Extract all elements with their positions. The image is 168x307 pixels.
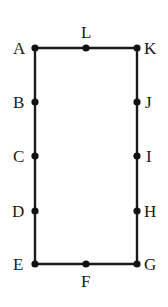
- vertex-label-h: H: [144, 203, 156, 220]
- vertex-dot-b: [31, 98, 38, 105]
- geometry-figure: ABCDEFGHIJKL: [0, 0, 168, 307]
- vertex-dot-h: [133, 207, 140, 214]
- vertex-dot-e: [31, 260, 38, 267]
- vertex-label-g: G: [144, 256, 156, 273]
- vertex-label-i: I: [146, 148, 152, 165]
- vertex-dots: [31, 44, 140, 267]
- vertex-dot-a: [31, 44, 38, 51]
- vertex-dot-g: [133, 260, 140, 267]
- rectangle-edges: [35, 48, 137, 264]
- vertex-label-k: K: [144, 40, 156, 57]
- vertex-dot-i: [133, 152, 140, 159]
- vertex-dot-d: [31, 207, 38, 214]
- vertex-label-c: C: [13, 148, 24, 165]
- vertex-dot-f: [82, 260, 89, 267]
- vertex-dot-j: [133, 98, 140, 105]
- vertex-label-a: A: [13, 40, 25, 57]
- vertex-label-b: B: [13, 94, 24, 111]
- vertex-label-j: J: [145, 94, 152, 111]
- vertex-dot-l: [82, 44, 89, 51]
- vertex-label-f: F: [81, 273, 90, 290]
- vertex-label-e: E: [13, 256, 23, 273]
- vertex-label-l: L: [81, 24, 91, 41]
- vertex-label-d: D: [12, 203, 24, 220]
- vertex-dot-k: [133, 44, 140, 51]
- vertex-dot-c: [31, 152, 38, 159]
